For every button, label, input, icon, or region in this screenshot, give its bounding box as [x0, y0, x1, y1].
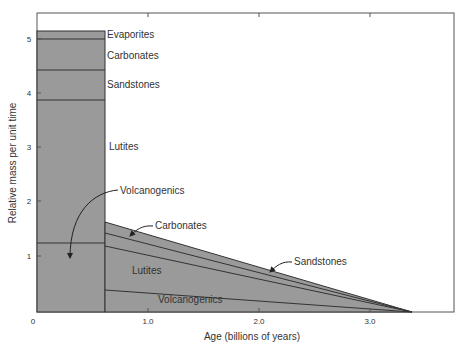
y-tick-4: 4 — [27, 89, 32, 98]
sediment-mass-chart: 1 2 3 4 5 0 1.0 2.0 3.0 Relative mass pe… — [0, 0, 466, 357]
y-tick-5: 5 — [27, 35, 32, 44]
label-wedge-sandstones: Sandstones — [294, 256, 347, 267]
label-bar-carbonates: Carbonates — [107, 50, 159, 61]
x-axis-label: Age (billions of years) — [204, 331, 300, 342]
y-tick-2: 2 — [27, 197, 32, 206]
y-axis-label: Relative mass per unit time — [7, 102, 18, 223]
label-wedge-carbonates: Carbonates — [155, 220, 207, 231]
young-bar — [37, 31, 105, 312]
label-bar-sandstones: Sandstones — [107, 79, 160, 90]
y-tick-3: 3 — [27, 143, 32, 152]
x-tick-2: 2.0 — [253, 317, 265, 326]
label-bar-lutites: Lutites — [109, 141, 138, 152]
label-bar-volcanogenics: Volcanogenics — [120, 185, 185, 196]
y-tick-1: 1 — [27, 252, 32, 261]
x-tick-3: 3.0 — [364, 317, 376, 326]
x-tick-1: 1.0 — [142, 317, 154, 326]
x-tick-0: 0 — [31, 317, 36, 326]
label-bar-evaporites: Evaporites — [107, 29, 154, 40]
label-wedge-lutites: Lutites — [132, 265, 161, 276]
arrow-wedge-sandstones — [270, 262, 292, 272]
label-wedge-volcanogenics: Volcanogenics — [158, 294, 223, 305]
